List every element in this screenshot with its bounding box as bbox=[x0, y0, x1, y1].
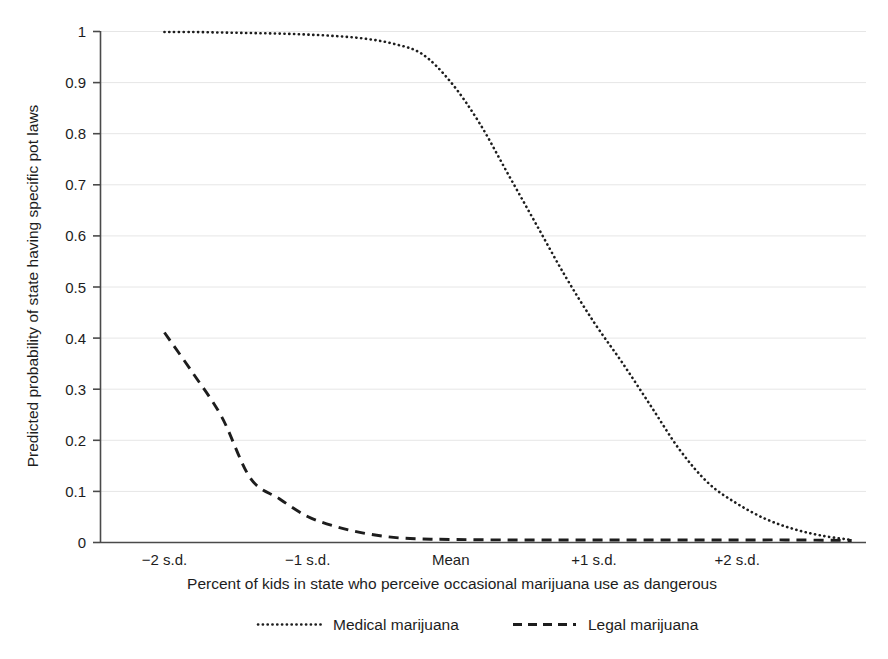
y-axis-tick-label: 0 bbox=[78, 534, 86, 551]
x-axis-title: Percent of kids in state who perceive oc… bbox=[187, 575, 717, 592]
x-axis-tick-label: +2 s.d. bbox=[714, 551, 759, 568]
y-axis-tick-label: 0.4 bbox=[65, 330, 86, 347]
y-axis-tick-label: 0.8 bbox=[65, 125, 86, 142]
y-axis-tick-label: 0.7 bbox=[65, 176, 86, 193]
y-axis-tick-label: 0.1 bbox=[65, 483, 86, 500]
y-axis-title: Predicted probability of state having sp… bbox=[24, 104, 41, 467]
legend-label-medical-marijuana: Medical marijuana bbox=[333, 616, 459, 633]
legend-label-legal-marijuana: Legal marijuana bbox=[588, 616, 699, 633]
x-axis-tick-label: Mean bbox=[432, 551, 470, 568]
chart-figure: 00.10.20.30.40.50.60.70.80.91 −2 s.d.−1 … bbox=[0, 0, 888, 659]
y-axis-tick-label: 1 bbox=[78, 23, 86, 40]
y-axis-tick-label: 0.3 bbox=[65, 381, 86, 398]
line-chart: 00.10.20.30.40.50.60.70.80.91 −2 s.d.−1 … bbox=[0, 0, 888, 659]
x-axis-tick-label: −1 s.d. bbox=[285, 551, 330, 568]
x-axis-tick-label: +1 s.d. bbox=[571, 551, 616, 568]
y-axis-tick-label: 0.5 bbox=[65, 279, 86, 296]
y-axis-tick-label: 0.6 bbox=[65, 227, 86, 244]
y-axis-tick-label: 0.9 bbox=[65, 74, 86, 91]
x-axis-tick-label: −2 s.d. bbox=[142, 551, 187, 568]
y-axis-tick-label: 0.2 bbox=[65, 432, 86, 449]
